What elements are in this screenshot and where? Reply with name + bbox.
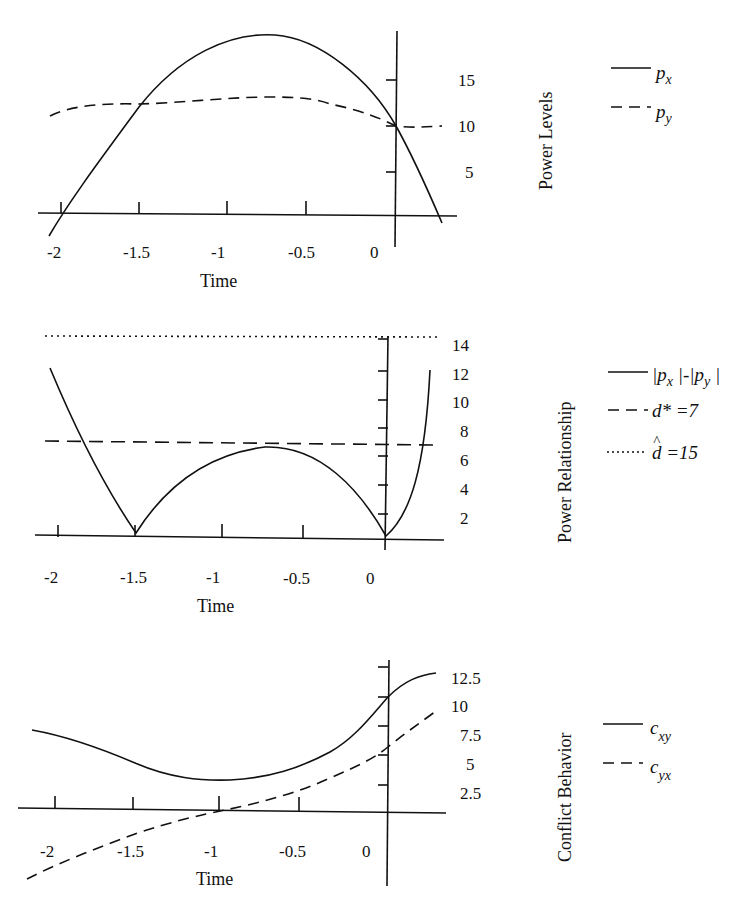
x-tick-label: -0.5: [288, 243, 315, 262]
legend-power-levels: px py: [611, 62, 673, 126]
legend-conflict-behavior: cxy cyx: [603, 717, 672, 783]
y-tick-label: 14: [452, 336, 470, 355]
bottom-tick-labels: -2 -1.5 -1 -0.5 0 12.5 10 7.5 5 2.5 Time…: [40, 669, 575, 889]
series-cyx-line: [27, 711, 436, 879]
y-tick-label: 10: [451, 697, 468, 716]
legend-label-dstar: d* =7: [652, 400, 700, 421]
x-tick-label: -0.5: [279, 842, 306, 861]
y-axis: [395, 31, 397, 247]
panel-conflict-behavior: [18, 660, 446, 886]
y-axis-title: Power Levels: [536, 92, 556, 190]
x-tick-label: -1: [204, 842, 218, 861]
y-tick-label: 12: [452, 365, 469, 384]
y-tick-label: 5: [465, 163, 474, 182]
middle-tick-labels: -2 -1.5 -1 -0.5 0 14 12 10 8 6 4 2 Time …: [44, 336, 575, 616]
y-tick-label: 5: [466, 755, 475, 774]
x-axis-title: Time: [196, 869, 233, 889]
x-tick-label: -1: [211, 243, 225, 262]
y-tick-label: 2.5: [460, 784, 481, 803]
x-tick-label: 0: [362, 842, 371, 861]
y-ticks: [378, 667, 388, 785]
x-axis-title: Time: [197, 596, 234, 616]
x-tick-label: -2: [44, 568, 58, 587]
series-dstar-line: [45, 441, 436, 445]
x-tick-label: -1.5: [120, 568, 147, 587]
legend-label-cyx: cyx: [650, 756, 672, 783]
series-dhat-line: [45, 336, 438, 337]
legend-label-py: py: [654, 101, 673, 126]
legend-label-cxy: cxy: [650, 717, 672, 744]
x-tick-label: -2: [47, 243, 61, 262]
x-tick-label: 0: [370, 243, 379, 262]
series-power-diff-line: [50, 368, 430, 536]
y-tick-label: 2: [460, 509, 469, 528]
panel-power-levels: [38, 31, 457, 247]
y-axis-title: Power Relationship: [555, 402, 575, 544]
legend-label-power-diff: |px |-|py |: [652, 364, 720, 389]
x-tick-label: -0.5: [283, 569, 310, 588]
legend-power-relationship: |px |-|py | d* =7 d =15 ^: [607, 364, 720, 463]
panel-power-relationship: [35, 336, 444, 550]
y-tick-label: 8: [460, 422, 469, 441]
x-tick-label: -2: [40, 842, 54, 861]
y-tick-label: 15: [458, 71, 475, 90]
x-tick-label: -1.5: [123, 243, 150, 262]
y-tick-label: 7.5: [460, 726, 481, 745]
figure: -2 -1.5 -1 -0.5 0 15 10 5 Time Power Lev…: [0, 0, 755, 914]
series-cxy-line: [32, 673, 436, 780]
x-tick-label: -1: [206, 568, 220, 587]
y-tick-label: 12.5: [451, 669, 481, 688]
y-axis: [385, 336, 388, 550]
x-axis: [38, 213, 457, 216]
y-axis: [387, 660, 389, 886]
x-tick-label: 0: [366, 569, 375, 588]
series-py-line: [50, 97, 442, 127]
y-tick-label: 10: [458, 117, 475, 136]
y-tick-label: 4: [460, 480, 469, 499]
y-tick-label: 6: [460, 451, 469, 470]
legend-label-px: px: [654, 62, 673, 87]
y-tick-label: 10: [452, 393, 469, 412]
series-px-line: [49, 35, 442, 236]
y-axis-title: Conflict Behavior: [555, 733, 575, 862]
x-axis-title: Time: [200, 271, 237, 291]
x-axis: [35, 535, 444, 540]
x-tick-label: -1.5: [117, 842, 144, 861]
